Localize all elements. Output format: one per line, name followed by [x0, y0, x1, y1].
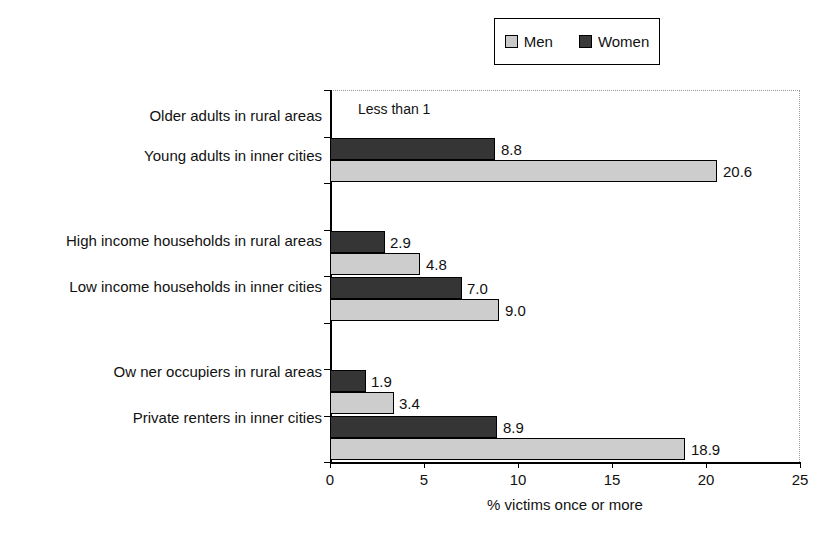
x-tick-label-20: 20 — [698, 472, 715, 487]
bar-men-private-renters-inner — [330, 438, 685, 460]
bar-value-women-owner-occupiers-rural: 1.9 — [371, 370, 392, 392]
x-tick-label-5: 5 — [420, 472, 428, 487]
x-axis-line — [330, 462, 801, 464]
bar-value-women-low-income-inner: 7.0 — [467, 277, 488, 299]
category-label-older-adults-rural: Older adults in rural areas — [0, 104, 322, 126]
bar-value-men-young-adults: 20.6 — [723, 160, 752, 182]
legend-item-men: Men — [505, 34, 553, 49]
bar-men-high-income-rural — [330, 253, 420, 275]
bar-women-high-income-rural — [330, 231, 385, 253]
bar-value-men-low-income-inner: 9.0 — [505, 299, 526, 321]
x-tick — [706, 462, 707, 468]
legend-item-women: Women — [579, 34, 649, 49]
x-tick-label-25: 25 — [792, 472, 809, 487]
plot-area: 0 5 10 15 20 25 Less than 1 8.8 20.6 2.9… — [330, 90, 800, 462]
bar-value-women-private-renters-inner: 8.9 — [503, 416, 524, 438]
category-label-low-income-inner: Low income households in inner cities — [0, 275, 322, 297]
x-tick — [800, 462, 801, 468]
y-tick — [324, 323, 330, 324]
category-label-young-adults-inner: Young adults in inner cities — [0, 144, 322, 166]
category-label-owner-occupiers-rural: Ow ner occupiers in rural areas — [0, 360, 322, 382]
bar-value-women-young-adults: 8.8 — [501, 138, 522, 160]
bar-men-low-income-inner — [330, 299, 499, 321]
bar-value-women-high-income-rural: 2.9 — [390, 231, 411, 253]
x-tick-label-15: 15 — [604, 472, 621, 487]
men-swatch-icon — [505, 35, 518, 48]
bar-men-young-adults — [330, 160, 717, 182]
y-tick — [324, 90, 330, 91]
bar-value-men-owner-occupiers-rural: 3.4 — [399, 392, 420, 414]
category-label-high-income-rural: High income households in rural areas — [0, 229, 322, 251]
women-swatch-icon — [579, 35, 592, 48]
x-axis-title: % victims once or more — [330, 497, 800, 512]
y-tick — [324, 183, 330, 184]
bar-women-young-adults — [330, 138, 495, 160]
bar-value-men-high-income-rural: 4.8 — [426, 253, 447, 275]
bar-women-low-income-inner — [330, 277, 462, 299]
annotation-less-than-1: Less than 1 — [358, 102, 430, 116]
x-tick — [612, 462, 613, 468]
x-tick — [330, 462, 331, 468]
x-tick — [518, 462, 519, 468]
x-tick-label-10: 10 — [510, 472, 527, 487]
x-tick-label-0: 0 — [326, 472, 334, 487]
chart-legend: Men Women — [494, 18, 660, 65]
bar-men-owner-occupiers-rural — [330, 392, 394, 414]
plot-frame-right — [799, 90, 800, 462]
chart-canvas: Men Women Older adults in rural areas Yo… — [0, 0, 823, 535]
bar-value-men-private-renters-inner: 18.9 — [691, 438, 720, 460]
plot-frame-top — [330, 90, 800, 91]
bar-women-owner-occupiers-rural — [330, 370, 366, 392]
legend-label-men: Men — [524, 34, 553, 49]
category-label-private-renters-inner: Private renters in inner cities — [0, 406, 322, 428]
legend-label-women: Women — [598, 34, 649, 49]
x-tick — [424, 462, 425, 468]
bar-women-private-renters-inner — [330, 416, 497, 438]
